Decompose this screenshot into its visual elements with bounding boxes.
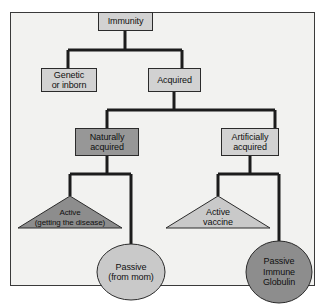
node-passive-globulin-shape[interactable]: [246, 241, 312, 303]
node-active-disease-shape[interactable]: [18, 196, 122, 228]
diagram-canvas: Immunity Genetic or inborn Acquired Natu…: [0, 0, 327, 307]
node-naturally-acquired[interactable]: [75, 128, 139, 156]
node-immunity[interactable]: [98, 12, 153, 31]
node-genetic[interactable]: [41, 68, 97, 92]
node-acquired[interactable]: [148, 68, 201, 92]
node-passive-mom-shape[interactable]: [97, 244, 165, 300]
node-artificially-acquired[interactable]: [221, 128, 279, 156]
node-active-vaccine-shape[interactable]: [166, 196, 270, 228]
